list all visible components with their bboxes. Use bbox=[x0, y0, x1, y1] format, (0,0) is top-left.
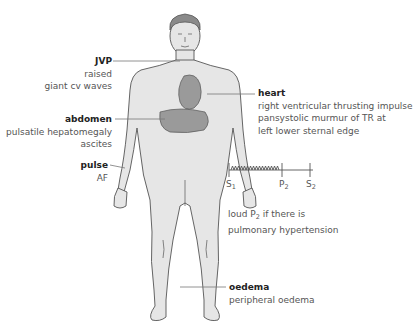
pulse-annotation: pulse AF bbox=[81, 159, 108, 184]
jvp-title: JVP bbox=[45, 55, 112, 68]
abdomen-annotation: abdomen pulsatile hepatomegaly ascites bbox=[6, 113, 112, 151]
jvp-annotation: JVP raised giant cv waves bbox=[45, 55, 112, 93]
heart-annotation: heart right ventricular thrusting impuls… bbox=[258, 87, 413, 137]
pulse-title: pulse bbox=[81, 159, 108, 172]
loud-p2-note: loud P2 if there is pulmonary hypertensi… bbox=[228, 208, 338, 236]
heart-title: heart bbox=[258, 87, 413, 100]
s1-label: S1 bbox=[226, 179, 236, 191]
oedema-title: oedema bbox=[229, 281, 315, 294]
liver-organ bbox=[160, 109, 209, 133]
abdomen-title: abdomen bbox=[6, 113, 112, 126]
p2-label: P2 bbox=[279, 179, 289, 191]
heart-organ bbox=[179, 75, 201, 109]
oedema-annotation: oedema peripheral oedema bbox=[229, 281, 315, 306]
murmur-waveform bbox=[231, 166, 279, 170]
s2-label: S2 bbox=[306, 179, 316, 191]
